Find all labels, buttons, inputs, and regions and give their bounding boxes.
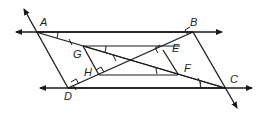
arc-G — [105, 46, 106, 52]
label-A: A — [39, 16, 47, 28]
label-D: D — [64, 90, 72, 102]
line-BC-extended — [193, 32, 237, 108]
label-G: G — [73, 48, 82, 60]
label-C: C — [230, 73, 238, 85]
arc-A — [57, 32, 58, 38]
segment-G-to-right — [83, 46, 225, 88]
arc-F — [156, 68, 157, 74]
label-F: F — [184, 62, 192, 74]
geometry-diagram: A B C D E F G H — [0, 0, 267, 113]
label-E: E — [172, 42, 180, 54]
label-B: B — [190, 16, 197, 28]
label-H: H — [84, 66, 92, 78]
